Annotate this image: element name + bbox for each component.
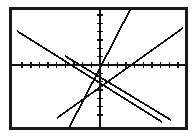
coordinate-plane-figure [0,0,196,137]
plot-frame-border [11,9,187,129]
graph-screenshot [0,0,196,137]
